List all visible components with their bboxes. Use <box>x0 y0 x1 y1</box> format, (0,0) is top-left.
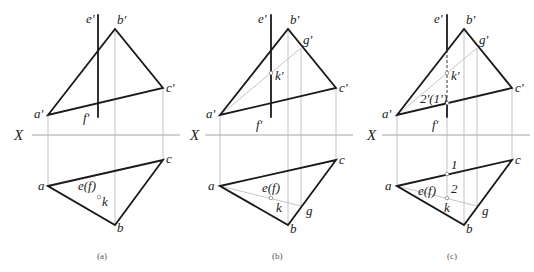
label-g: g <box>482 203 489 218</box>
label-ef: e(f) <box>262 180 280 195</box>
x-axis-label: X <box>189 127 200 143</box>
label-a: a <box>38 178 45 193</box>
label-f-prime: f' <box>432 117 439 132</box>
label-c-prime: c' <box>515 80 524 95</box>
label-b-prime: b' <box>117 12 127 27</box>
projection-diagram: X e' b' c' a' f' a c b e(f) k (a) X <box>0 0 534 272</box>
label-a: a <box>208 178 215 193</box>
aux-line-ag-top <box>397 186 477 206</box>
label-b: b <box>466 221 473 236</box>
label-c-prime: c' <box>339 80 348 95</box>
label-1: 1 <box>451 157 458 172</box>
x-axis-label: X <box>366 127 377 143</box>
point-ef-top <box>269 196 273 200</box>
caption-a: (a) <box>97 251 107 261</box>
caption-b: (b) <box>272 251 283 261</box>
label-g-prime: g' <box>479 32 489 47</box>
panel-b: X e' b' g' k' c' a' f' a c b e(f) k g (b… <box>189 11 353 261</box>
label-a-prime: a' <box>382 106 392 121</box>
label-k-prime: k' <box>275 68 284 83</box>
label-f-prime: f' <box>256 117 263 132</box>
label-ef: e(f) <box>78 178 96 193</box>
label-c: c <box>166 151 172 166</box>
label-b: b <box>117 220 124 235</box>
label-e-prime: e' <box>434 11 443 26</box>
label-f-prime: f' <box>83 110 90 125</box>
label-2: 2 <box>451 181 458 196</box>
label-b: b <box>290 221 297 236</box>
panel-a: X e' b' c' a' f' a c b e(f) k (a) <box>13 11 180 261</box>
label-e-prime: e' <box>258 11 267 26</box>
point-ef-top <box>97 195 101 199</box>
label-k: k <box>102 194 108 209</box>
label-b-prime: b' <box>466 12 476 27</box>
label-a-prime: a' <box>34 106 44 121</box>
triangle-top-view <box>48 160 163 225</box>
label-b-prime: b' <box>290 12 300 27</box>
label-a: a <box>385 178 392 193</box>
aux-line-ag-top <box>220 186 301 206</box>
label-e-prime: e' <box>86 11 95 26</box>
point-k-prime <box>445 71 449 75</box>
label-c: c <box>339 152 345 167</box>
triangle-front-view <box>48 29 163 115</box>
label-k: k <box>276 200 282 215</box>
x-axis-label: X <box>13 127 24 143</box>
label-c: c <box>515 152 521 167</box>
label-a-prime: a' <box>206 106 216 121</box>
label-ef: e(f) <box>418 183 436 198</box>
label-c-prime: c' <box>166 80 175 95</box>
caption-c: (c) <box>447 251 457 261</box>
panel-c: X e' b' g' k' 2'(1') c' a' f' 1 2 a c b <box>366 11 530 261</box>
point-k-prime <box>269 71 273 75</box>
label-2-1-prime: 2'(1') <box>420 91 447 106</box>
label-k-prime: k' <box>451 68 460 83</box>
label-g-prime: g' <box>303 32 313 47</box>
point-1 <box>445 172 449 176</box>
label-g: g <box>306 203 313 218</box>
label-k: k <box>444 200 450 215</box>
